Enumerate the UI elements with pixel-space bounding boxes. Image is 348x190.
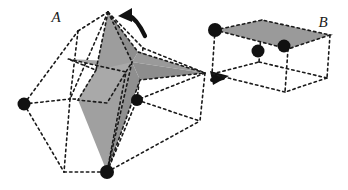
vertex-bottom: [100, 165, 114, 179]
vertex-left-outer: [18, 98, 31, 111]
vertex-inner-mid: [252, 45, 265, 58]
vertex-center-right: [131, 94, 143, 106]
figure-root: A: [0, 0, 348, 190]
polytope-diagram: A: [0, 0, 348, 190]
label-object-a: A: [50, 9, 61, 25]
vertex-front-right: [278, 40, 291, 53]
label-object-b: B: [318, 14, 327, 30]
vertex-top-left: [208, 23, 222, 37]
